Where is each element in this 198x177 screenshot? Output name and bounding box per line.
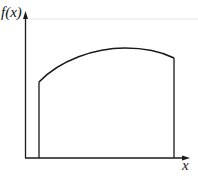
function-curve [39,48,174,82]
integral-diagram [0,0,198,177]
y-axis-arrow-icon [23,11,28,19]
x-axis-label: x [182,158,189,173]
y-axis-label: f(x) [1,5,22,20]
